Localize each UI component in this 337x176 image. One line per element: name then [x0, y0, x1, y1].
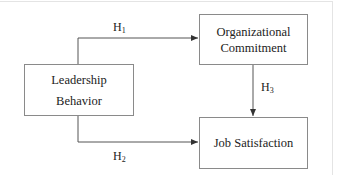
- edge-label-h3-text: H: [261, 80, 270, 94]
- edge-label-h2-text: H: [113, 149, 122, 163]
- edge-label-h2-sub: 2: [122, 155, 126, 164]
- edge-label-h2: H2: [113, 149, 126, 164]
- node-leadership-behavior: Leadership Behavior: [24, 64, 134, 116]
- node-leadership-line1: Leadership: [51, 72, 107, 88]
- node-job-satisfaction: Job Satisfaction: [199, 117, 308, 169]
- edge-label-h1-text: H: [113, 20, 122, 34]
- edge-h2-arrow: [78, 115, 198, 142]
- edge-label-h3-sub: 3: [270, 86, 274, 95]
- edge-h1-arrow: [78, 38, 198, 64]
- node-organizational-commitment: Organizational Commitment: [199, 14, 308, 65]
- node-commitment-line1: Organizational: [216, 24, 290, 40]
- edge-label-h1: H1: [113, 20, 126, 35]
- node-leadership-line2: Behavior: [56, 93, 102, 109]
- node-satisfaction-line1: Job Satisfaction: [214, 135, 294, 151]
- edge-label-h3: H3: [261, 80, 274, 95]
- edge-label-h1-sub: 1: [122, 26, 126, 35]
- node-commitment-line2: Commitment: [221, 40, 287, 56]
